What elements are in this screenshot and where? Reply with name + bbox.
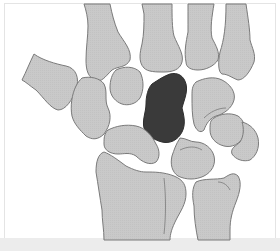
lunate-bone	[171, 138, 214, 179]
wrist-bones-illustration	[0, 0, 280, 251]
capitate-bone-highlighted	[143, 73, 186, 142]
wrist-anatomy-figure: Carpal bones of the wrist with the capit…	[0, 0, 280, 251]
trapezoid-bone	[110, 67, 143, 105]
metacarpal-5-bone	[219, 4, 255, 80]
triquetrum-bone	[210, 114, 245, 147]
metacarpal-3-bone	[140, 4, 182, 72]
metacarpal-4-bone	[185, 4, 218, 70]
ulna-bone	[193, 174, 240, 240]
trapezium-bone	[71, 77, 110, 139]
metacarpal-1-bone	[22, 54, 78, 110]
